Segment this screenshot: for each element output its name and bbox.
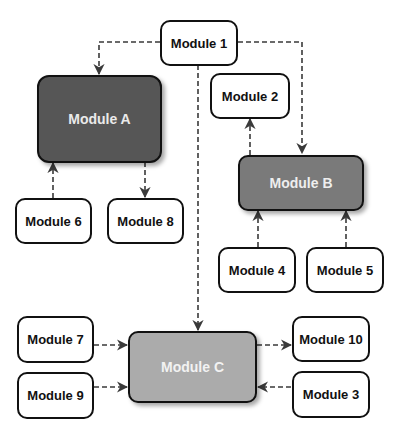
node-module-5[interactable]: Module 5 xyxy=(306,247,384,293)
node-module-1[interactable]: Module 1 xyxy=(160,20,238,66)
node-module-b[interactable]: Module B xyxy=(238,155,364,211)
node-label: Module 5 xyxy=(317,263,373,278)
node-module-6[interactable]: Module 6 xyxy=(15,198,92,244)
node-module-7[interactable]: Module 7 xyxy=(17,316,94,363)
node-label: Module 10 xyxy=(299,332,363,347)
node-module-10[interactable]: Module 10 xyxy=(292,316,370,362)
node-module-4[interactable]: Module 4 xyxy=(218,247,296,293)
node-label: Module 2 xyxy=(222,89,278,104)
node-module-9[interactable]: Module 9 xyxy=(17,372,94,419)
node-label: Module 9 xyxy=(27,388,83,403)
node-label: Module 1 xyxy=(171,36,227,51)
node-label: Module 6 xyxy=(25,214,81,229)
node-label: Module 8 xyxy=(117,214,173,229)
node-label: Module 7 xyxy=(27,332,83,347)
node-label: Module A xyxy=(68,111,130,127)
node-label: Module 4 xyxy=(229,263,285,278)
node-label: Module 3 xyxy=(303,387,359,402)
node-module-3[interactable]: Module 3 xyxy=(292,371,370,418)
node-label: Module C xyxy=(161,359,224,375)
node-module-8[interactable]: Module 8 xyxy=(107,198,184,244)
edge-module1-moduleA xyxy=(99,42,160,74)
node-label: Module B xyxy=(270,175,333,191)
node-module-a[interactable]: Module A xyxy=(37,75,162,163)
node-module-c[interactable]: Module C xyxy=(128,331,257,403)
diagram-canvas: Module 1 Module A Module 2 Module B Modu… xyxy=(0,0,395,435)
node-module-2[interactable]: Module 2 xyxy=(210,73,290,119)
